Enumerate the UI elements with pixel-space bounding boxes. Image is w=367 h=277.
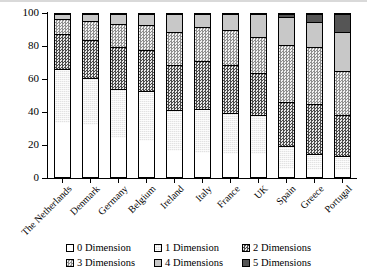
bar-segment bbox=[335, 71, 350, 115]
bar-segment bbox=[139, 50, 154, 91]
bar-germany[interactable] bbox=[110, 13, 127, 178]
swatch-2-dimensions-icon bbox=[242, 244, 250, 252]
bar-segment bbox=[307, 47, 322, 104]
x-label-text: Ireland bbox=[158, 183, 186, 211]
bar-segment bbox=[167, 32, 182, 65]
x-tick-mark bbox=[202, 179, 203, 183]
bar-segment bbox=[167, 65, 182, 111]
bar-segment bbox=[223, 14, 238, 30]
bar-segment bbox=[139, 25, 154, 49]
bar-segment bbox=[307, 22, 322, 46]
x-tick-mark bbox=[286, 179, 287, 183]
legend-item-1-dimension[interactable]: 1 Dimension bbox=[154, 242, 242, 254]
bar-segment bbox=[251, 14, 266, 37]
y-tick-label: 60 bbox=[28, 72, 39, 84]
swatch-5-dimensions-icon bbox=[242, 259, 250, 267]
x-tick-mark bbox=[62, 179, 63, 183]
bar-segment bbox=[83, 14, 98, 21]
bar-segment bbox=[111, 14, 126, 24]
x-tick-mark bbox=[258, 179, 259, 183]
bar-the-netherlands[interactable] bbox=[54, 13, 71, 178]
bar-segment bbox=[139, 91, 154, 142]
bar-segment bbox=[195, 61, 210, 108]
bar-segment bbox=[55, 14, 70, 19]
bar-italy[interactable] bbox=[194, 13, 211, 178]
bar-portugal[interactable] bbox=[334, 13, 351, 178]
bar-segment bbox=[307, 14, 322, 22]
bar-segment bbox=[251, 37, 266, 73]
y-tick-label: 20 bbox=[28, 138, 39, 150]
y-tick-label: 80 bbox=[28, 39, 39, 51]
bar-segment bbox=[55, 34, 70, 70]
bar-segment bbox=[335, 115, 350, 156]
bar-segment bbox=[55, 19, 70, 34]
bar-segment bbox=[167, 14, 182, 32]
y-tick-label: 40 bbox=[28, 105, 39, 117]
bar-spain[interactable] bbox=[278, 13, 295, 178]
legend-label: 0 Dimension bbox=[77, 242, 131, 254]
bar-segment bbox=[111, 47, 126, 89]
x-tick-mark bbox=[146, 179, 147, 183]
bar-segment bbox=[83, 40, 98, 77]
swatch-0-dimension-icon bbox=[66, 244, 74, 252]
x-tick-mark bbox=[314, 179, 315, 183]
legend-label: 3 Dimensions bbox=[77, 257, 135, 269]
x-tick-mark bbox=[118, 179, 119, 183]
bar-segment bbox=[251, 115, 266, 154]
bar-segment bbox=[111, 89, 126, 138]
x-label-text: UK bbox=[252, 183, 270, 201]
x-label-text: France bbox=[215, 183, 242, 210]
bar-segment bbox=[251, 73, 266, 115]
bar-segment bbox=[279, 14, 294, 17]
bar-segment bbox=[279, 102, 294, 146]
swatch-3-dimensions-icon bbox=[66, 259, 74, 267]
bar-segment bbox=[335, 14, 350, 32]
legend-item-5-dimensions[interactable]: 5 Dimensions bbox=[242, 257, 330, 269]
swatch-4-dimensions-icon bbox=[154, 259, 162, 267]
x-tick-mark bbox=[342, 179, 343, 183]
bar-ireland[interactable] bbox=[166, 13, 183, 178]
legend-item-4-dimensions[interactable]: 4 Dimensions bbox=[154, 257, 242, 269]
stacked-bar-chart: 020406080100 The NetherlandsDenmarkGerma… bbox=[0, 0, 367, 277]
x-tick-mark bbox=[230, 179, 231, 183]
x-label-text: Spain bbox=[274, 183, 298, 207]
bar-segment bbox=[223, 30, 238, 64]
x-label-text: Italy bbox=[193, 183, 214, 204]
swatch-1-dimension-icon bbox=[154, 244, 162, 252]
bar-france[interactable] bbox=[222, 13, 239, 178]
legend-item-2-dimensions[interactable]: 2 Dimensions bbox=[242, 242, 330, 254]
bar-segment bbox=[279, 45, 294, 102]
bar-segment bbox=[83, 21, 98, 41]
legend-item-3-dimensions[interactable]: 3 Dimensions bbox=[66, 257, 154, 269]
bar-segment bbox=[195, 27, 210, 61]
bar-segment bbox=[111, 24, 126, 47]
x-tick-mark bbox=[174, 179, 175, 183]
y-tick-0: 0 bbox=[42, 178, 48, 179]
bar-segment bbox=[335, 32, 350, 71]
legend-item-0-dimension[interactable]: 0 Dimension bbox=[66, 242, 154, 254]
bar-segment bbox=[167, 110, 182, 151]
bar-segment bbox=[307, 104, 322, 155]
bar-segment bbox=[139, 14, 154, 25]
bar-segment bbox=[83, 78, 98, 125]
chart-legend: 0 Dimension1 Dimension2 Dimensions3 Dime… bbox=[66, 240, 316, 270]
bar-belgium[interactable] bbox=[138, 13, 155, 178]
bar-segment bbox=[223, 154, 238, 177]
bar-segment bbox=[195, 109, 210, 153]
y-tick-label: 100 bbox=[23, 6, 40, 18]
legend-label: 4 Dimensions bbox=[165, 257, 223, 269]
legend-label: 2 Dimensions bbox=[253, 242, 311, 254]
bar-segment bbox=[223, 113, 238, 154]
legend-label: 5 Dimensions bbox=[253, 257, 311, 269]
bar-segment bbox=[279, 169, 294, 177]
bar-segment bbox=[307, 154, 322, 170]
y-tick-mark bbox=[42, 178, 48, 179]
bar-segment bbox=[223, 65, 238, 114]
bar-segment bbox=[279, 17, 294, 45]
bar-segment bbox=[55, 123, 70, 177]
bar-segment bbox=[55, 69, 70, 123]
bar-uk[interactable] bbox=[250, 13, 267, 178]
bar-greece[interactable] bbox=[306, 13, 323, 178]
bar-segment bbox=[279, 146, 294, 169]
bar-segment bbox=[195, 14, 210, 27]
